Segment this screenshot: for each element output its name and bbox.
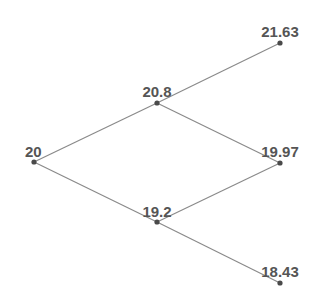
node-dot-n_uu [277,40,282,45]
edge-n0-n_u [34,103,157,162]
edge-n_u-n_uu [157,43,280,103]
node-label-down-down: 18.43 [261,263,299,280]
node-dot-n_dd [277,280,282,285]
nodes [31,40,282,285]
node-label-down: 19.2 [142,203,171,220]
node-dot-n_u [154,100,159,105]
binomial-tree-diagram: 20 20.8 19.2 21.63 19.97 18.43 [0,0,322,301]
edge-n_d-n_ud [157,163,280,222]
node-label-up-down: 19.97 [261,143,299,160]
node-dot-n0 [31,159,36,164]
edge-n0-n_d [34,162,157,222]
node-dot-n_d [154,219,159,224]
node-label-up-up: 21.63 [261,23,299,40]
node-dot-n_ud [277,160,282,165]
edges [34,43,280,283]
node-label-root: 20 [25,143,42,160]
node-label-up: 20.8 [142,83,171,100]
